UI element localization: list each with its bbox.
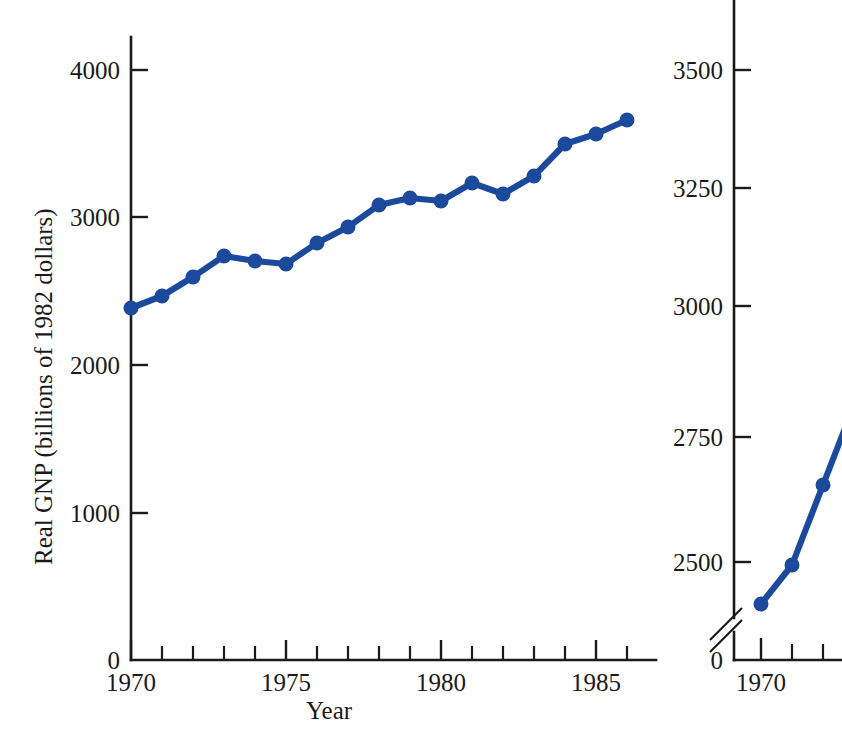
right-y-label-0: 0 <box>711 647 724 674</box>
right-point-1972 <box>816 478 831 493</box>
left-y-tick-labels: 4000 3000 2000 1000 0 <box>70 57 120 674</box>
left-x-label-1975: 1975 <box>261 669 311 696</box>
left-point-1975 <box>279 257 294 272</box>
left-axes <box>131 37 656 660</box>
right-x-ticks <box>761 638 823 660</box>
right-chart-svg: 3500 3250 3000 2750 2500 0 1970 <box>615 0 842 734</box>
right-series-gnp <box>754 405 842 612</box>
right-y-label-2500: 2500 <box>673 549 723 576</box>
left-point-1982 <box>496 187 511 202</box>
left-series-polyline <box>131 120 627 308</box>
left-series-gnp <box>124 113 635 316</box>
right-y-label-3500: 3500 <box>673 57 723 84</box>
left-point-1979 <box>403 191 418 206</box>
right-y-label-3000: 3000 <box>673 293 723 320</box>
right-y-tick-labels: 3500 3250 3000 2750 2500 0 <box>673 57 723 674</box>
left-y-ticks <box>131 70 148 513</box>
left-y-axis-title: Real GNP (billions of 1982 dollars) <box>30 208 58 565</box>
left-x-axis-title: Year <box>306 697 352 725</box>
left-y-label-1000: 1000 <box>70 500 120 527</box>
left-x-ticks <box>131 640 627 660</box>
left-point-1983 <box>527 169 542 184</box>
left-point-1971 <box>155 289 170 304</box>
left-point-1973 <box>217 249 232 264</box>
left-point-1977 <box>341 220 356 235</box>
left-point-1981 <box>465 176 480 191</box>
right-y-ticks <box>734 70 751 562</box>
left-chart-svg: 4000 3000 2000 1000 0 <box>0 0 660 734</box>
left-y-label-2000: 2000 <box>70 352 120 379</box>
left-point-1972 <box>186 270 201 285</box>
right-y-label-3250: 3250 <box>673 175 723 202</box>
left-x-tick-labels: 1970 1975 1980 1985 <box>106 669 621 696</box>
right-axis-break-icon <box>710 608 742 652</box>
right-point-1970 <box>754 597 769 612</box>
left-point-1985 <box>589 127 604 142</box>
gnp-figure: 4000 3000 2000 1000 0 <box>0 0 842 734</box>
right-x-tick-labels: 1970 <box>736 669 786 696</box>
left-y-label-3000: 3000 <box>70 204 120 231</box>
right-y-label-2750: 2750 <box>673 424 723 451</box>
left-point-1974 <box>248 254 263 269</box>
right-point-1971 <box>785 558 800 573</box>
left-chart-panel: 4000 3000 2000 1000 0 <box>0 0 660 734</box>
left-point-1976 <box>310 236 325 251</box>
right-chart-panel: 3500 3250 3000 2750 2500 0 1970 <box>615 0 842 734</box>
left-point-1984 <box>558 137 573 152</box>
left-x-label-1970: 1970 <box>106 669 156 696</box>
left-point-1980 <box>434 194 449 209</box>
right-x-label-1970: 1970 <box>736 669 786 696</box>
left-point-1978 <box>372 198 387 213</box>
left-x-label-1980: 1980 <box>416 669 466 696</box>
left-x-label-1985: 1985 <box>571 669 621 696</box>
left-point-1970 <box>124 301 139 316</box>
right-series-polyline <box>761 405 842 604</box>
left-y-label-4000: 4000 <box>70 57 120 84</box>
